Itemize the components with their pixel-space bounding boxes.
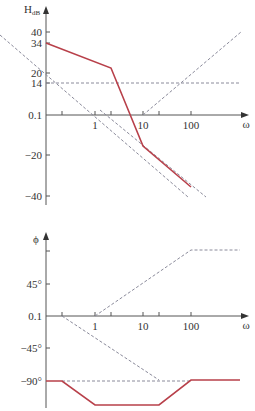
phase-curve: [46, 380, 240, 405]
tick-label: 45°: [27, 278, 42, 290]
asymptote-line: [95, 250, 240, 316]
tick-label: 10: [138, 320, 150, 332]
tick-label: 1: [92, 320, 98, 332]
phase-plot: ϕ 45° 0.1 −45° −90° 1 10 100 ω: [20, 232, 249, 408]
y-axis-arrow-icon: [43, 6, 49, 14]
bode-plots: HdB 40 34 20 14 0.1 −20 −40 1 10 100 ω: [0, 0, 255, 411]
tick-label: −20: [25, 149, 43, 161]
omega-label: ω: [242, 118, 249, 130]
tick-label: 1: [92, 119, 98, 131]
magnitude-y-label: HdB: [24, 3, 40, 17]
magnitude-plot: HdB 40 34 20 14 0.1 −20 −40 1 10 100 ω: [0, 3, 250, 205]
tick-label: −40: [25, 190, 43, 202]
tick-label: 100: [183, 119, 200, 131]
tick-label: 0.1: [28, 109, 42, 121]
phase-y-label: ϕ: [33, 233, 39, 245]
tick-label: 10: [138, 119, 150, 131]
tick-label: 100: [183, 320, 200, 332]
tick-label: −45°: [20, 342, 42, 354]
tick-label: 34: [31, 37, 43, 49]
omega-label: ω: [242, 319, 249, 331]
asymptote-line: [143, 32, 241, 115]
tick-label: −90°: [20, 375, 42, 387]
tick-label: 0.1: [28, 310, 42, 322]
y-axis-arrow-icon: [43, 232, 49, 240]
tick-label: 14: [31, 77, 43, 89]
